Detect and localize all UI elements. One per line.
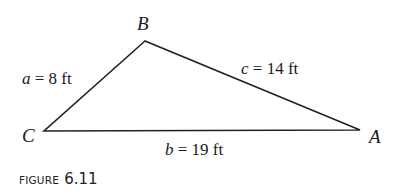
caption-number: 6.11	[64, 170, 97, 188]
triangle-abc	[44, 41, 360, 131]
side-var-a: a	[22, 69, 31, 88]
side-value-b: = 19 ft	[174, 140, 224, 159]
caption-prefix: FIGURE	[19, 174, 59, 186]
figure-caption: FIGURE 6.11	[19, 171, 98, 187]
side-label-a: a = 8 ft	[22, 70, 72, 87]
side-label-b: b = 19 ft	[165, 141, 223, 158]
side-label-c: c = 14 ft	[241, 60, 298, 77]
side-value-a: = 8 ft	[31, 69, 72, 88]
vertex-label-b: B	[137, 14, 149, 33]
figure-6-11: B C A a = 8 ft c = 14 ft b = 19 ft FIGUR…	[0, 0, 408, 196]
side-var-b: b	[165, 140, 174, 159]
triangle-diagram	[0, 0, 408, 196]
side-var-c: c	[241, 59, 249, 78]
vertex-label-a: A	[369, 127, 381, 146]
vertex-label-c: C	[22, 126, 35, 145]
side-value-c: = 14 ft	[249, 59, 299, 78]
